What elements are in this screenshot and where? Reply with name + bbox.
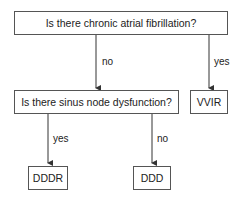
question-chronic-af: Is there chronic atrial fibrillation? [14, 11, 228, 35]
question-sinus-node-text: Is there sinus node dysfunction? [21, 96, 172, 108]
outcome-ddd: DDD [133, 166, 171, 190]
edge-label-q2-no: no [157, 133, 168, 144]
edge-label-q1-yes: yes [214, 56, 230, 67]
outcome-dddr-text: DDDR [33, 172, 63, 184]
question-sinus-node: Is there sinus node dysfunction? [14, 90, 179, 114]
outcome-ddd-text: DDD [141, 172, 164, 184]
edge-label-q1-no: no [102, 56, 113, 67]
question-chronic-af-text: Is there chronic atrial fibrillation? [46, 17, 197, 29]
outcome-vvir: VVIR [190, 90, 228, 114]
outcome-vvir-text: VVIR [197, 96, 222, 108]
outcome-dddr: DDDR [28, 166, 68, 190]
edge-label-q2-yes: yes [53, 133, 69, 144]
